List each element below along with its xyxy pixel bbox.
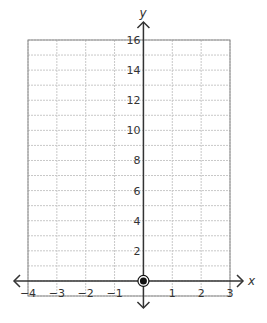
y-tick-label: 12 (126, 94, 140, 107)
x-axis-label: x (247, 274, 256, 288)
x-tick-label: 1 (169, 287, 176, 300)
y-tick-label: 8 (133, 154, 140, 167)
y-tick-label: 14 (126, 64, 140, 77)
x-tick-label: −1 (106, 287, 122, 300)
point-dot (140, 277, 147, 284)
x-tick-label: 3 (227, 287, 234, 300)
x-tick-label: −3 (49, 287, 65, 300)
y-tick-label: 2 (133, 245, 140, 258)
x-tick-label: 2 (198, 287, 205, 300)
y-tick-label: 16 (126, 34, 140, 47)
y-tick-label: 10 (126, 124, 140, 137)
coordinate-plane: −4−3−2−1123 246810121416 x y (0, 0, 267, 323)
y-tick-label: 4 (133, 215, 140, 228)
x-tick-label: −4 (20, 287, 36, 300)
plotted-points (138, 275, 149, 286)
x-tick-label: −2 (78, 287, 94, 300)
grid-border (28, 40, 230, 296)
x-tick-labels: −4−3−2−1123 (20, 287, 234, 300)
y-tick-label: 6 (133, 185, 140, 198)
y-tick-labels: 246810121416 (126, 34, 140, 258)
grid-lines (28, 40, 230, 296)
y-axis-label: y (138, 6, 147, 20)
